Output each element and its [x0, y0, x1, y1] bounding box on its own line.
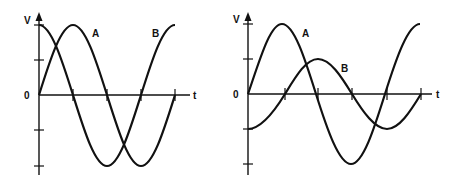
left-wave-b-label: B [152, 28, 159, 39]
left-origin-label: 0 [24, 90, 30, 101]
right-x-label: t [436, 89, 440, 100]
left-diagram: V 0 t A B [24, 12, 197, 175]
right-y-axis-arrow-icon [245, 12, 252, 21]
waveform-diagrams: V 0 t A B V 0 t A B [0, 0, 462, 190]
left-y-label: V [24, 15, 31, 26]
right-origin-label: 0 [233, 89, 239, 100]
right-wave-b-label: B [341, 63, 348, 74]
right-wave-a-label: A [302, 28, 309, 39]
left-x-label: t [193, 90, 197, 101]
left-wave-a-label: A [92, 28, 99, 39]
right-diagram: V 0 t A B [233, 12, 440, 175]
right-y-label: V [233, 14, 240, 25]
left-y-axis-arrow-icon [36, 12, 43, 21]
